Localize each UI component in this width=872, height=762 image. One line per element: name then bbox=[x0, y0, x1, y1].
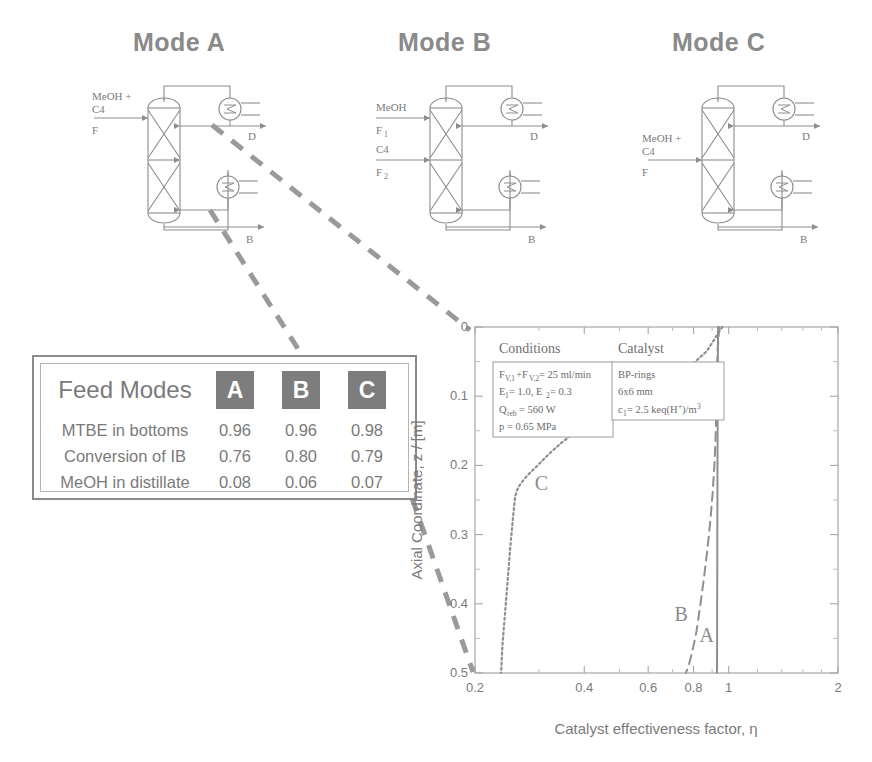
catalyst-heading: Catalyst bbox=[618, 341, 664, 356]
x-tick-label: 0.2 bbox=[466, 680, 484, 695]
table-header-cell-b: B bbox=[268, 363, 334, 417]
cell-conv-b: 0.80 bbox=[268, 443, 334, 469]
effectiveness-factor-chart: 0.20.40.60.812 00.10.20.30.40.5 ABC Cond… bbox=[400, 310, 870, 755]
y-tick-label: 0.4 bbox=[450, 596, 468, 611]
cell-mtbe-b: 0.96 bbox=[268, 417, 334, 443]
curve-label-b: B bbox=[675, 603, 688, 625]
svg-text:p = 0.65 MPa: p = 0.65 MPa bbox=[499, 421, 557, 432]
cell-mtbe-a: 0.96 bbox=[202, 417, 268, 443]
curve-label-c: C bbox=[535, 472, 548, 494]
row-label-meoh-distillate: MeOH in distillate bbox=[48, 469, 202, 495]
x-tick-label: 2 bbox=[834, 680, 841, 695]
cell-meoh-c: 0.07 bbox=[334, 469, 400, 495]
mode-chip-c: C bbox=[348, 371, 386, 409]
svg-text:)/m: )/m bbox=[682, 404, 697, 416]
svg-text:= 0.3: = 0.3 bbox=[550, 386, 572, 397]
catalyst-line-1: BP-rings bbox=[618, 369, 655, 380]
table-row: MeOH in distillate 0.08 0.06 0.07 bbox=[48, 469, 400, 495]
table-row: Conversion of IB 0.76 0.80 0.79 bbox=[48, 443, 400, 469]
mode-chip-a: A bbox=[216, 371, 254, 409]
x-tick-label: 0.8 bbox=[685, 680, 703, 695]
svg-text:= 1.0, E: = 1.0, E bbox=[509, 386, 542, 397]
cell-meoh-a: 0.08 bbox=[202, 469, 268, 495]
y-tick-label: 0.2 bbox=[450, 457, 468, 472]
y-tick-label: 0 bbox=[461, 319, 468, 334]
x-axis-title: Catalyst effectiveness factor, η bbox=[554, 720, 757, 737]
feed-modes-title: Feed Modes bbox=[48, 363, 202, 417]
chart-curve-labels: ABC bbox=[535, 472, 715, 646]
x-axis-tick-labels: 0.20.40.60.812 bbox=[466, 680, 842, 695]
conditions-heading: Conditions bbox=[499, 341, 560, 356]
catalyst-line-2: 6x6 mm bbox=[618, 386, 653, 397]
connector-mode-a-to-table bbox=[210, 210, 300, 352]
x-tick-label: 1 bbox=[725, 680, 732, 695]
y-tick-label: 0.3 bbox=[450, 527, 468, 542]
svg-text:= 560 W: = 560 W bbox=[519, 404, 556, 415]
svg-text:reb: reb bbox=[507, 409, 517, 418]
y-tick-label: 0.5 bbox=[450, 665, 468, 680]
svg-text:V,1: V,1 bbox=[505, 374, 515, 383]
mode-chip-b: B bbox=[282, 371, 320, 409]
y-axis-tick-labels: 00.10.20.30.40.5 bbox=[450, 319, 468, 680]
curve-label-a: A bbox=[700, 624, 715, 646]
x-tick-label: 0.6 bbox=[639, 680, 657, 695]
svg-text:3: 3 bbox=[697, 402, 701, 411]
table-header-cell-a: A bbox=[202, 363, 268, 417]
feed-modes-table: Feed Modes A B C MTBE in bottoms 0.96 0.… bbox=[48, 363, 400, 495]
cell-conv-c: 0.79 bbox=[334, 443, 400, 469]
row-label-conversion-ib: Conversion of IB bbox=[48, 443, 202, 469]
cell-meoh-b: 0.06 bbox=[268, 469, 334, 495]
table-header-cell-c: C bbox=[334, 363, 400, 417]
cell-conv-a: 0.76 bbox=[202, 443, 268, 469]
svg-text:+F: +F bbox=[516, 369, 528, 380]
svg-text:= 25 ml/min: = 25 ml/min bbox=[539, 369, 592, 380]
svg-text:Q: Q bbox=[499, 404, 507, 415]
svg-text:= 2.5 keq(H: = 2.5 keq(H bbox=[627, 404, 678, 416]
table-header-row: Feed Modes A B C bbox=[48, 363, 400, 417]
table-row: MTBE in bottoms 0.96 0.96 0.98 bbox=[48, 417, 400, 443]
y-tick-label: 0.1 bbox=[450, 388, 468, 403]
connector-mode-a-to-chart bbox=[212, 125, 470, 330]
svg-text:V,2: V,2 bbox=[529, 374, 539, 383]
row-label-mtbe-bottoms: MTBE in bottoms bbox=[48, 417, 202, 443]
feed-modes-panel: Feed Modes A B C MTBE in bottoms 0.96 0.… bbox=[32, 355, 417, 500]
cell-mtbe-c: 0.98 bbox=[334, 417, 400, 443]
y-axis-title: Axial Coordinate, z / [m] bbox=[408, 420, 425, 579]
x-tick-label: 0.4 bbox=[575, 680, 593, 695]
